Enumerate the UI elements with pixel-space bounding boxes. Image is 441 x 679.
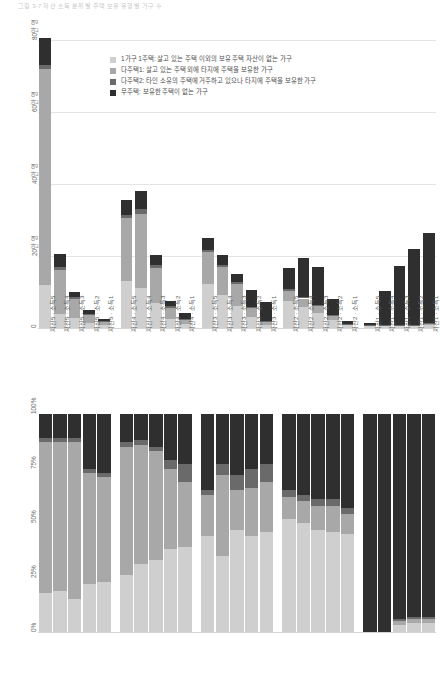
bar-segment bbox=[297, 501, 310, 523]
bar-segment bbox=[164, 414, 177, 460]
share-chart: 0%25%50%75%100% bbox=[0, 408, 441, 648]
bar[interactable] bbox=[216, 414, 229, 632]
bar-segment bbox=[311, 530, 324, 632]
bar-segment bbox=[120, 575, 133, 632]
bar[interactable] bbox=[407, 414, 420, 632]
bar[interactable] bbox=[393, 414, 406, 632]
x-axis-tick-label: 자산2 · 소득2 bbox=[335, 296, 344, 332]
y-axis-tick-label: 40만 명 bbox=[30, 163, 39, 184]
bar-segment bbox=[260, 482, 273, 532]
bar-segment bbox=[341, 508, 354, 515]
x-axis-tick-label: 자산5 · 소득5 bbox=[48, 296, 57, 332]
bar[interactable] bbox=[297, 414, 310, 632]
x-axis-tick-label: 자산5 · 소득2 bbox=[92, 296, 101, 332]
bar[interactable] bbox=[134, 414, 147, 632]
bar-segment bbox=[53, 438, 66, 442]
bar[interactable] bbox=[245, 414, 258, 632]
legend-item: 무주택: 보유한 주택이 없는 가구 bbox=[110, 87, 316, 98]
bar-segment bbox=[83, 414, 96, 469]
bar[interactable] bbox=[363, 414, 376, 632]
bar-segment bbox=[178, 414, 191, 464]
x-axis-tick-label: 자산4 · 소득1 bbox=[187, 296, 196, 332]
legend-label: 다주택2: 타인 소유의 주택에 거주하고 있으나 타지에 주택을 보유한 가구 bbox=[121, 78, 316, 84]
x-axis-tick-label: 자산3 · 소득1 bbox=[269, 296, 278, 332]
bar-segment bbox=[135, 214, 147, 289]
bar-segment bbox=[326, 499, 339, 506]
bar[interactable] bbox=[341, 414, 354, 632]
bar-segment bbox=[149, 560, 162, 632]
bar-segment bbox=[120, 447, 133, 576]
bar-segment bbox=[282, 414, 295, 490]
bar-segment bbox=[53, 442, 66, 590]
x-axis-tick-label: 자산4 · 소득3 bbox=[158, 296, 167, 332]
bar-segment bbox=[422, 619, 435, 623]
bar-segment bbox=[53, 591, 66, 632]
x-axis-tick-label: 자산4 · 소득2 bbox=[173, 296, 182, 332]
bar-segment bbox=[202, 250, 214, 252]
bar-segment bbox=[230, 475, 243, 490]
bar-segment bbox=[201, 414, 214, 490]
bar-segment bbox=[134, 445, 147, 565]
bar-segment bbox=[97, 414, 110, 473]
bar-segment bbox=[260, 532, 273, 632]
bar-segment bbox=[150, 255, 162, 266]
bar-segment bbox=[341, 414, 354, 508]
bar[interactable] bbox=[97, 414, 110, 632]
bar-segment bbox=[245, 414, 258, 469]
y-axis-tick-label: 50% bbox=[30, 510, 37, 523]
bar-segment bbox=[202, 252, 214, 284]
bar-segment bbox=[326, 532, 339, 632]
x-axis-tick-label: 자산5 · 소득3 bbox=[77, 296, 86, 332]
x-axis-tick-label: 자산1 · 소득1 bbox=[431, 296, 440, 332]
bar[interactable] bbox=[201, 414, 214, 632]
bar[interactable] bbox=[282, 414, 295, 632]
bar-segment bbox=[178, 464, 191, 481]
bar[interactable] bbox=[326, 414, 339, 632]
bar-segment bbox=[135, 209, 147, 213]
bar-segment bbox=[245, 536, 258, 632]
bar[interactable] bbox=[68, 414, 81, 632]
bar[interactable] bbox=[378, 414, 391, 632]
bar[interactable] bbox=[39, 38, 51, 328]
bar[interactable] bbox=[260, 414, 273, 632]
bar-segment bbox=[378, 414, 391, 632]
bar[interactable] bbox=[39, 414, 52, 632]
bar-segment bbox=[216, 556, 229, 632]
x-axis-tick-label: 자산1 · 소득3 bbox=[402, 296, 411, 332]
bar-segment bbox=[326, 506, 339, 532]
legend-swatch-1주택 bbox=[110, 57, 116, 63]
bar-segment bbox=[178, 482, 191, 547]
bar[interactable] bbox=[178, 414, 191, 632]
legend-label: 1가구 1주택: 살고 있는 주택 이외의 보유 주택 자산이 없는 가구 bbox=[121, 56, 292, 62]
bar-segment bbox=[297, 495, 310, 502]
bar-segment bbox=[326, 414, 339, 499]
gridline bbox=[38, 40, 436, 41]
bar-segment bbox=[422, 623, 435, 632]
bar-segment bbox=[230, 530, 243, 632]
bar[interactable] bbox=[311, 414, 324, 632]
bar[interactable] bbox=[53, 414, 66, 632]
bar-segment bbox=[341, 534, 354, 632]
bar-segment bbox=[230, 414, 243, 475]
x-axis-tick-label: 자산1 · 소득4 bbox=[387, 296, 396, 332]
y-axis-tick-label: 80만 명 bbox=[30, 19, 39, 40]
bar-segment bbox=[298, 258, 310, 297]
x-axis-tick-label: 자산2 · 소득5 bbox=[291, 296, 300, 332]
bar[interactable] bbox=[164, 414, 177, 632]
x-axis-tick-label: 자산2 · 소득4 bbox=[306, 296, 315, 332]
bar-segment bbox=[311, 506, 324, 530]
bar[interactable] bbox=[83, 414, 96, 632]
bar-segment bbox=[121, 218, 133, 281]
x-axis-tick-label: 자산1 · 소득2 bbox=[416, 296, 425, 332]
bar-segment bbox=[68, 599, 81, 632]
bar[interactable] bbox=[230, 414, 243, 632]
x-axis-tick-label: 자산5 · 소득1 bbox=[106, 296, 115, 332]
bar[interactable] bbox=[120, 414, 133, 632]
legend-label: 다주택1: 살고 있는 주택 외에 타지에 주택을 보유한 가구 bbox=[121, 67, 273, 73]
bar-segment bbox=[230, 490, 243, 529]
legend-item: 1가구 1주택: 살고 있는 주택 이외의 보유 주택 자산이 없는 가구 bbox=[110, 54, 316, 65]
y-axis-tick-label: 0% bbox=[30, 623, 37, 632]
bar-segment bbox=[422, 414, 435, 617]
bar[interactable] bbox=[422, 414, 435, 632]
bar[interactable] bbox=[149, 414, 162, 632]
